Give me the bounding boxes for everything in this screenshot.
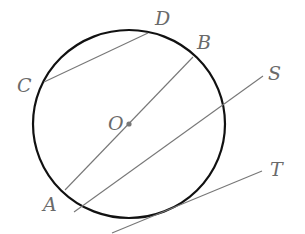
tangent-t xyxy=(112,171,262,233)
label-c: C xyxy=(17,74,32,96)
label-b: B xyxy=(196,31,211,53)
circle-diagram: O C D B S T A xyxy=(0,0,305,234)
label-s: S xyxy=(268,62,281,84)
center-point-o xyxy=(126,121,131,126)
label-a: A xyxy=(41,193,57,215)
label-d: D xyxy=(154,7,170,29)
label-o: O xyxy=(108,112,124,134)
label-t: T xyxy=(270,158,284,180)
secant-s xyxy=(74,76,263,212)
